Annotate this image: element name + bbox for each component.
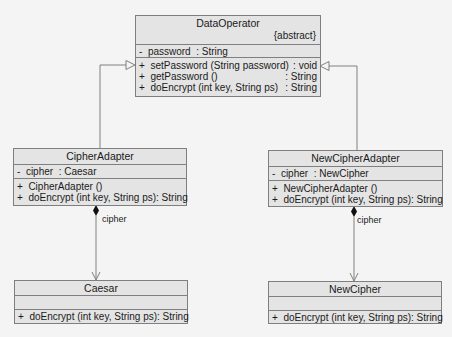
class-new-cipher-adapter[interactable]: NewCipherAdapter - cipher : NewCipher + … [268, 150, 443, 207]
hollow-triangle-icon [126, 61, 135, 70]
generalization-line-right [329, 66, 357, 150]
class-data-operator[interactable]: DataOperator {abstract} - password : Str… [135, 15, 321, 97]
class-name-section: Caesar [15, 281, 187, 295]
class-name: Caesar [18, 281, 184, 295]
class-caesar[interactable]: Caesar + doEncrypt (int key, String ps):… [14, 280, 188, 324]
operations-section: + CipherAdapter () + doEncrypt (int key,… [14, 178, 186, 205]
class-name-section: NewCipherAdapter [269, 151, 442, 166]
class-cipher-adapter[interactable]: CipherAdapter - cipher : Caesar + Cipher… [13, 148, 187, 206]
operations-section: + NewCipherAdapter () + doEncrypt (int k… [269, 180, 442, 206]
composition-role-label: cipher [357, 215, 382, 225]
attribute: - cipher : NewCipher [272, 168, 369, 179]
operation-row: + doEncrypt (int key, String ps): String [139, 82, 317, 93]
class-name-section: NewCipher [269, 282, 441, 296]
attributes-section: - cipher : Caesar [14, 164, 186, 178]
operations-section: + doEncrypt (int key, String ps): String [15, 309, 187, 323]
operation-row: + NewCipherAdapter () [272, 183, 439, 194]
operation-row: + getPassword (): String [139, 71, 317, 82]
operations-section: + doEncrypt (int key, String ps): String [269, 310, 441, 323]
stereotype: {abstract} [139, 30, 317, 42]
class-name: DataOperator [139, 16, 317, 30]
attributes-section: - cipher : NewCipher [269, 166, 442, 180]
attributes-section [269, 296, 441, 310]
composition-role-label: cipher [102, 214, 127, 224]
hollow-triangle-icon [320, 62, 329, 71]
filled-diamond-icon [93, 205, 99, 216]
operation-row: + CipherAdapter () [17, 181, 183, 192]
attribute: - password : String [139, 46, 228, 57]
attributes-section: - password : String [136, 44, 320, 57]
class-name: NewCipherAdapter [272, 151, 439, 165]
class-new-cipher[interactable]: NewCipher + doEncrypt (int key, String p… [268, 281, 442, 324]
class-name-section: DataOperator {abstract} [136, 16, 320, 44]
operation-row: + doEncrypt (int key, String ps): String [18, 311, 184, 322]
class-name-section: CipherAdapter [14, 149, 186, 164]
attribute: - cipher : Caesar [17, 166, 96, 177]
class-name: NewCipher [272, 282, 438, 296]
operation-row: + doEncrypt (int key, String ps): String [272, 312, 438, 323]
attributes-section [15, 295, 187, 309]
operation-row: + doEncrypt (int key, String ps): String [17, 192, 183, 203]
operation-row: + setPassword (String password): void [139, 60, 317, 71]
operations-section: + setPassword (String password): void + … [136, 57, 320, 96]
operation-row: + doEncrypt (int key, String ps): String [272, 194, 439, 205]
generalization-line-left [100, 65, 127, 148]
class-name: CipherAdapter [17, 149, 183, 163]
